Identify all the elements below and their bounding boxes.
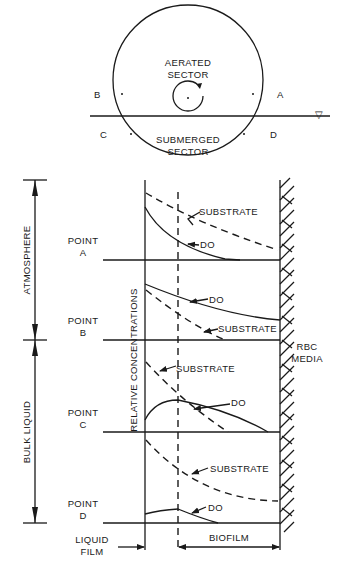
liquid-film-label-2: FILM [81,546,104,557]
zone-dimension: ATMOSPHERE BULK LIQUID [21,180,47,523]
point-a-label: POINT [68,235,99,246]
point-b-label: POINT [68,315,99,326]
liquid-film-label: LIQUID [75,534,108,545]
wheel-point-b: B [94,89,101,100]
point-b-label-2: B [80,327,87,338]
aerated-label: AERATED [165,57,211,68]
point-c-dot [130,133,132,135]
rbc-wheel: AERATED SECTOR SUBMERGED SECTOR A B C D … [90,5,330,157]
point-d-do-label: DO [208,502,223,513]
wheel-point-c: C [100,129,107,140]
point-d-label-2: D [79,510,86,521]
point-c-label: POINT [68,407,99,418]
point-c-do-label: DO [231,397,246,408]
axle-dot [187,97,189,99]
water-level-icon: ▽ [315,109,323,120]
wheel-point-a: A [277,89,284,100]
point-a-substrate-label: SUBSTRATE [199,206,258,217]
profile-point-d: POINT D DO SUBSTRATE [68,440,280,523]
submerged-label: SUBMERGED [156,134,220,145]
point-b-dot [121,93,123,95]
point-a-dot [252,93,254,95]
rotation-arrowhead-icon [196,83,202,89]
rbc-media-label-2: MEDIA [291,353,323,364]
point-b-substrate-label: SUBSTRATE [218,323,277,334]
point-a-do-label: DO [200,239,215,250]
aerated-label-2: SECTOR [167,69,208,80]
submerged-label-2: SECTOR [167,146,208,157]
bottom-dimensions: LIQUID FILM BIOFILM [75,532,279,557]
point-d-label: POINT [68,498,99,509]
point-a-label-2: A [80,247,87,258]
profile-point-b: POINT B DO SUBSTRATE [68,284,280,340]
point-c-label-2: C [79,419,86,430]
y-axis-label: RELATIVE CONCENTRATIONS [128,288,139,431]
profile-point-c: POINT C DO SUBSTRATE [68,362,280,432]
point-b-do-label: DO [209,294,224,305]
biofilm-label: BIOFILM [209,532,249,543]
rbc-media-label: RBC [297,341,318,352]
point-d-dot [243,133,245,135]
wheel-point-d: D [270,129,277,140]
point-c-substrate-label: SUBSTRATE [176,363,235,374]
disc-circle [113,5,263,155]
rbc-diagram: AERATED SECTOR SUBMERGED SECTOR A B C D … [0,0,352,570]
profile-point-a: POINT A DO SUBSTRATE [68,193,280,260]
atmosphere-label: ATMOSPHERE [21,226,32,295]
point-d-substrate-label: SUBSTRATE [210,463,269,474]
bulk-liquid-label: BULK LIQUID [21,401,32,463]
